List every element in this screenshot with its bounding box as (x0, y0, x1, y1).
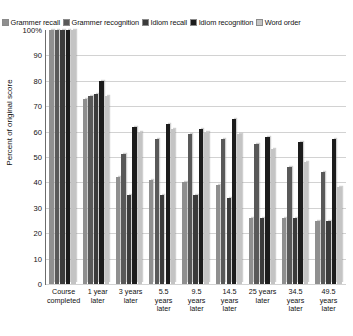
bar-group (179, 30, 212, 284)
bar-chart: Grammer recallGrammer recognitionIdiom r… (0, 0, 353, 336)
bar (83, 99, 87, 284)
bar (315, 221, 319, 285)
legend-item: Idiom recognition (190, 18, 253, 27)
bar (55, 30, 59, 284)
y-tick-label: 10 (2, 254, 42, 263)
bar (71, 30, 75, 284)
chart-legend: Grammer recallGrammer recognitionIdiom r… (2, 17, 351, 28)
bar (204, 132, 208, 284)
bar (49, 30, 53, 284)
bar-group (46, 30, 79, 284)
y-tick-label: 20 (2, 229, 42, 238)
bar-group (279, 30, 312, 284)
gridline (46, 284, 346, 285)
legend-item: Idiom recall (142, 18, 187, 27)
bar (221, 139, 225, 284)
legend-item: Grammer recognition (63, 18, 139, 27)
bar (121, 154, 125, 284)
bar (249, 218, 253, 284)
bar (287, 167, 291, 284)
y-axis-title: Percent of original score (5, 48, 14, 198)
bar (321, 172, 325, 284)
x-tick-label: 3 yearslater (114, 288, 147, 334)
bar (155, 139, 159, 284)
bar (116, 177, 120, 284)
x-tick-label: 25 yearslater (246, 288, 279, 334)
legend-label: Grammer recognition (72, 18, 140, 27)
bar (254, 144, 258, 284)
bar (199, 129, 203, 284)
bar (60, 30, 64, 284)
bar-group (146, 30, 179, 284)
bar (304, 162, 308, 284)
bar-group (79, 30, 112, 284)
bar (260, 218, 264, 284)
x-tick-label: Coursecompleted (46, 288, 81, 334)
bar (160, 195, 164, 284)
bar (232, 119, 236, 284)
bar (332, 139, 336, 284)
bar (326, 221, 330, 285)
legend-swatch-icon (63, 19, 70, 26)
legend-swatch-icon (256, 19, 263, 26)
x-tick-label: 5.5yearslater (147, 288, 180, 334)
bar (216, 185, 220, 284)
bar (271, 149, 275, 284)
bar (193, 195, 197, 284)
x-axis-labels: Coursecompleted1 yearlater3 yearslater5.… (46, 288, 345, 334)
x-tick-label: 9.5yearslater (180, 288, 213, 334)
legend-label: Word order (265, 18, 301, 27)
bar (99, 81, 103, 284)
bar-group (312, 30, 345, 284)
x-tick-label: 49.5yearslater (312, 288, 345, 334)
bar (166, 124, 170, 284)
bar (132, 127, 136, 284)
bar (188, 134, 192, 284)
bar (66, 30, 70, 284)
bar (337, 187, 341, 284)
bar (88, 96, 92, 284)
bar (237, 134, 241, 284)
bar-group (245, 30, 278, 284)
x-tick-label: 14.5yearslater (213, 288, 246, 334)
legend-label: Idiom recall (151, 18, 188, 27)
bar (282, 218, 286, 284)
bar (227, 198, 231, 284)
legend-swatch-icon (190, 19, 197, 26)
legend-label: Idiom recognition (199, 18, 254, 27)
legend-item: Word order (256, 18, 300, 27)
y-tick-label: 30 (2, 203, 42, 212)
legend-swatch-icon (142, 19, 149, 26)
bar (149, 180, 153, 284)
y-tick-label: 100% (2, 26, 42, 35)
bar (105, 96, 109, 284)
bar (293, 218, 297, 284)
x-tick-label: 34.5yearslater (279, 288, 312, 334)
x-tick-label: 1 yearlater (81, 288, 114, 334)
bar (138, 132, 142, 284)
bar (182, 182, 186, 284)
y-tick-label: 0 (2, 280, 42, 289)
bar-group (112, 30, 145, 284)
bar (171, 129, 175, 284)
bar (298, 142, 302, 284)
bar (265, 137, 269, 284)
bar-groups (46, 30, 345, 284)
bar (94, 94, 98, 285)
bar (127, 195, 131, 284)
bar-group (212, 30, 245, 284)
